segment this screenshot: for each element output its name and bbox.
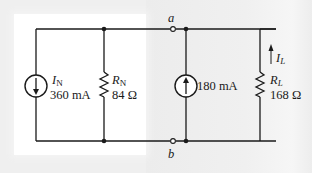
load-current-arrow-icon [269,44,274,64]
norton-source-value: 360 mA [50,89,91,102]
terminal-b-icon [171,139,176,144]
norton-resistor-value: 84 Ω [112,89,137,102]
added-current-source-icon [175,75,197,97]
terminal-a-icon [171,27,176,32]
added-source-value: 180 mA [197,80,238,93]
load-resistor-value: 168 Ω [270,89,301,102]
circuit-schematic [0,0,312,173]
load-current-symbol: IL [276,52,285,68]
norton-current-source-icon [25,75,47,97]
terminal-a-label: a [168,12,174,25]
terminal-b-label: b [168,148,174,161]
